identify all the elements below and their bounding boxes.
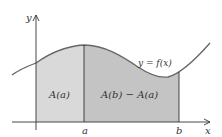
y-axis-label: y xyxy=(25,12,32,23)
x-axis-label: x xyxy=(205,125,211,136)
curve-label: y = f(x) xyxy=(137,58,172,68)
region-right-label: A(b) − A(a) xyxy=(100,89,158,100)
region-left xyxy=(36,45,84,122)
tick-b-label: b xyxy=(176,125,182,136)
tick-a-label: a xyxy=(82,125,88,136)
area-function-diagram: y x a b y = f(x) A(a) A(b) − A(a) xyxy=(0,0,222,137)
region-right xyxy=(84,45,179,122)
region-left-label: A(a) xyxy=(48,89,70,100)
